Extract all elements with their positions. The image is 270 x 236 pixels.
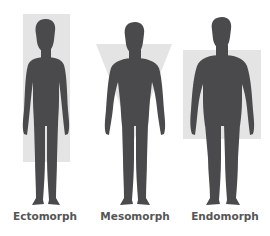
mesomorph-body-icon bbox=[90, 0, 180, 236]
endomorph-body-icon bbox=[180, 0, 270, 236]
ectomorph-label: Ectomorph bbox=[0, 210, 90, 222]
endomorph-label: Endomorph bbox=[180, 210, 270, 222]
ectomorph-body-icon bbox=[0, 0, 90, 236]
endomorph-figure: Endomorph bbox=[180, 0, 270, 236]
ectomorph-figure: Ectomorph bbox=[0, 0, 90, 236]
mesomorph-figure: Mesomorph bbox=[90, 0, 180, 236]
mesomorph-label: Mesomorph bbox=[90, 210, 180, 222]
